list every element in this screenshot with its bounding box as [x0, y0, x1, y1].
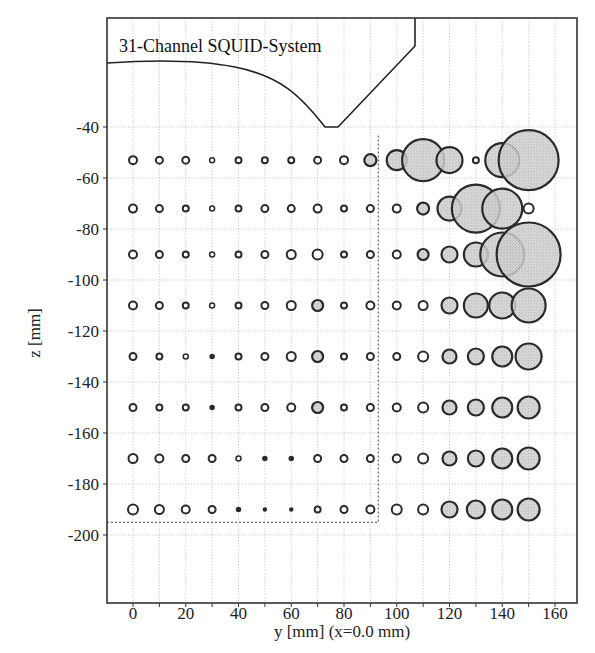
- data-bubble: [341, 252, 347, 258]
- data-bubble: [437, 147, 463, 173]
- data-bubble: [417, 203, 429, 215]
- data-bubble: [288, 157, 294, 163]
- data-bubble: [341, 405, 347, 411]
- data-bubble: [314, 455, 321, 462]
- dewar-outline-path: [107, 18, 415, 127]
- data-bubble: [442, 247, 458, 263]
- data-bubble: [492, 500, 512, 520]
- data-bubble: [393, 353, 400, 360]
- data-bubble: [209, 455, 216, 462]
- data-bubble: [261, 302, 268, 309]
- data-bubble: [156, 251, 163, 258]
- data-bubble: [156, 205, 163, 212]
- data-bubble: [182, 157, 189, 164]
- data-bubble: [393, 205, 401, 213]
- data-bubble: [129, 156, 137, 164]
- data-bubble: [366, 506, 374, 514]
- data-bubble: [443, 452, 457, 466]
- data-bubble: [130, 404, 137, 411]
- y-axis-label: z [mm]: [25, 308, 44, 358]
- data-bubble: [367, 404, 374, 411]
- data-bubble: [129, 251, 137, 259]
- data-bubble: [288, 205, 295, 212]
- data-bubble: [261, 205, 268, 212]
- data-bubble: [183, 252, 189, 258]
- data-bubble: [492, 347, 512, 367]
- data-bubble: [499, 130, 559, 190]
- squid-bubble-chart: 020406080100120140160-40-60-80-100-120-1…: [0, 0, 595, 653]
- x-tick-label: 60: [283, 604, 300, 623]
- x-tick-label: 0: [129, 604, 138, 623]
- data-bubble: [289, 457, 293, 461]
- data-bubble: [492, 398, 512, 418]
- data-bubble: [366, 302, 374, 310]
- data-bubble: [442, 298, 458, 314]
- data-bubble: [290, 508, 293, 511]
- data-bubble: [418, 352, 428, 362]
- data-bubble: [156, 405, 162, 411]
- data-bubble: [393, 404, 401, 412]
- y-tick-label: -40: [76, 118, 99, 137]
- data-bubble: [418, 403, 428, 413]
- x-axis-label: y [mm] (x=0.0 mm): [274, 622, 410, 641]
- data-bubble: [497, 223, 561, 287]
- measurement-region-outline: [107, 135, 378, 523]
- data-bubble: [341, 506, 348, 513]
- x-tick-label: 80: [336, 604, 353, 623]
- data-bubble: [183, 405, 189, 411]
- data-bubble: [518, 448, 540, 470]
- data-bubble: [287, 404, 295, 412]
- data-bubble: [156, 157, 163, 164]
- x-tick-label: 140: [490, 604, 516, 623]
- data-bubble: [340, 156, 348, 164]
- data-bubble: [393, 302, 401, 310]
- data-bubble: [516, 344, 542, 370]
- data-bubble: [287, 301, 296, 310]
- data-bubble: [236, 303, 242, 309]
- data-bubble: [312, 402, 323, 413]
- data-bubble: [418, 454, 428, 464]
- data-bubble: [367, 251, 374, 258]
- data-bubble: [367, 455, 374, 462]
- data-bubble: [237, 508, 241, 512]
- data-bubble: [129, 454, 138, 463]
- y-tick-label: -100: [68, 271, 99, 290]
- data-bubble: [518, 499, 540, 521]
- data-bubble: [315, 507, 321, 513]
- data-bubble: [183, 354, 188, 359]
- data-bubble: [312, 300, 323, 311]
- data-bubble: [182, 506, 190, 514]
- data-bubble: [155, 455, 163, 463]
- data-bubble: [236, 354, 242, 360]
- y-tick-label: -180: [68, 475, 99, 494]
- data-bubble: [236, 157, 242, 163]
- data-bubble: [261, 404, 268, 411]
- x-tick-label: 40: [230, 604, 247, 623]
- data-bubble: [364, 154, 376, 166]
- dewar-outline: [107, 18, 415, 127]
- y-tick-label: -160: [68, 424, 99, 443]
- data-bubble: [236, 456, 241, 461]
- data-bubble: [341, 303, 347, 309]
- data-bubble: [314, 157, 321, 164]
- data-bubble: [156, 302, 163, 309]
- data-bubble: [419, 301, 428, 310]
- data-bubble: [130, 353, 137, 360]
- data-bubble: [236, 252, 242, 258]
- data-bubble: [473, 157, 479, 163]
- data-bubble: [464, 294, 488, 318]
- data-bubble: [182, 455, 189, 462]
- data-bubble: [263, 457, 267, 461]
- data-bubble: [129, 205, 137, 213]
- data-bubble: [512, 289, 546, 323]
- measurement-region: [107, 135, 378, 523]
- data-bubble: [341, 455, 348, 462]
- data-bubble: [467, 501, 485, 519]
- data-bubble: [468, 349, 484, 365]
- data-bubble: [393, 455, 401, 463]
- data-bubble: [155, 505, 164, 514]
- y-tick-label: -140: [68, 373, 99, 392]
- data-bubble: [313, 250, 323, 260]
- data-bubble: [210, 406, 214, 410]
- data-bubble: [341, 206, 347, 212]
